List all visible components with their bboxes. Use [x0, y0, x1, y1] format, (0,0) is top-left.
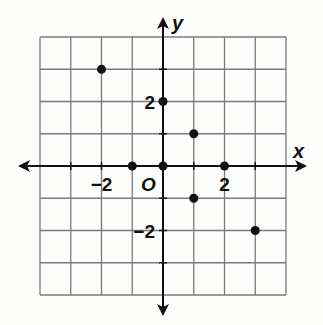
y-tick-label: −2 [133, 221, 155, 242]
data-point [159, 97, 168, 106]
x-axis-label: x [292, 140, 305, 162]
origin-label: O [141, 174, 156, 195]
data-points [97, 65, 260, 235]
data-point [159, 162, 168, 171]
data-point [189, 129, 198, 138]
axis-labels: x y O −222−2 [91, 12, 305, 242]
data-point [97, 65, 106, 74]
y-tick-label: 2 [144, 92, 155, 113]
data-point [220, 162, 229, 171]
data-point [251, 226, 260, 235]
data-point [128, 162, 137, 171]
data-point [189, 194, 198, 203]
y-axis-label: y [171, 12, 184, 34]
coordinate-plane: x y O −222−2 [0, 0, 323, 325]
x-tick-label: −2 [91, 174, 113, 195]
plot-svg: x y O −222−2 [0, 0, 323, 325]
x-tick-label: 2 [219, 174, 230, 195]
